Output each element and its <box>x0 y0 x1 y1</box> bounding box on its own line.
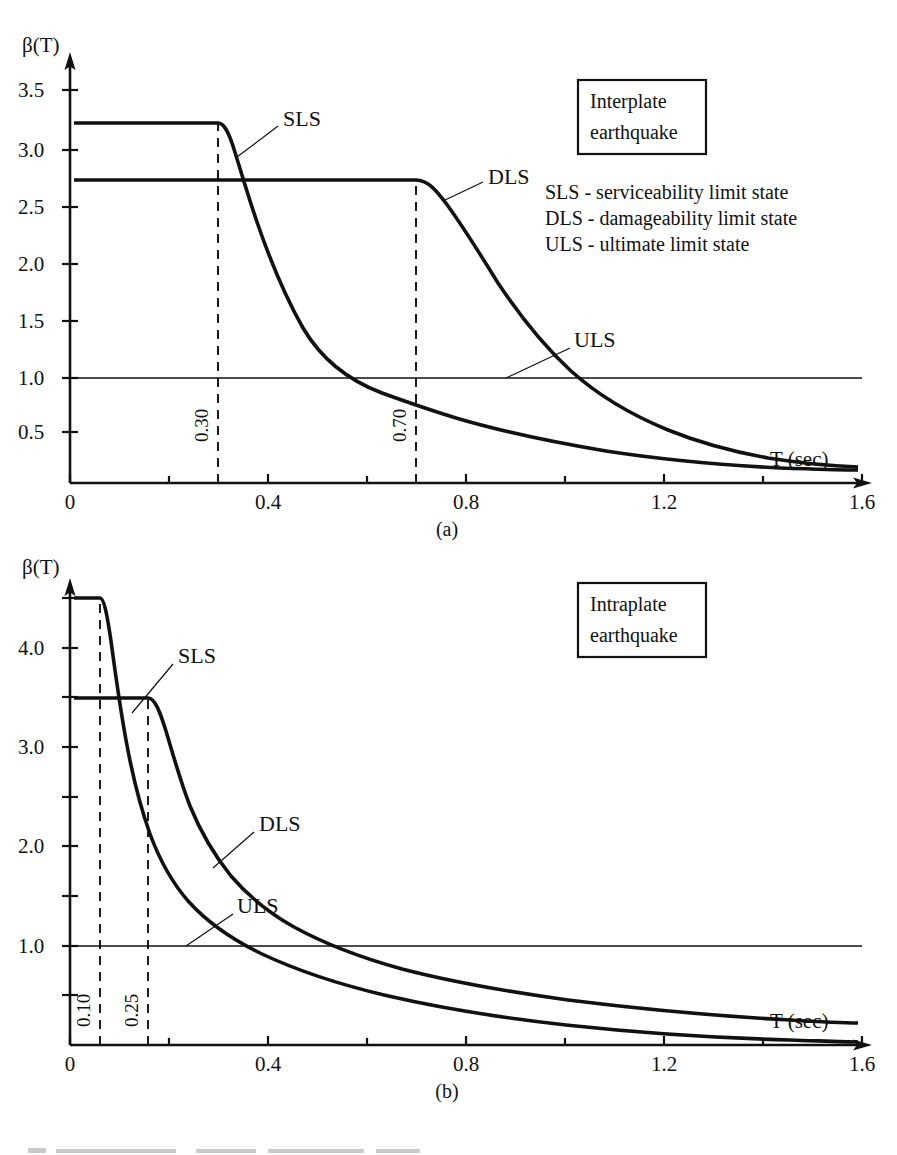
panel-a-x-tick-labels: 0 0.4 0.8 1.2 1.6 <box>65 490 875 514</box>
panel-a-ytick-0_5: 0.5 <box>18 420 44 444</box>
panel-b-dashed-label-0_10: 0.10 <box>73 994 94 1027</box>
panel-a-label: (a) <box>436 518 458 541</box>
panel-b: β(T) 4.0 3.0 2.0 1.0 <box>18 555 875 1103</box>
panel-b-dls-label: DLS <box>259 811 301 836</box>
panel-a-title-line2: earthquake <box>590 121 678 144</box>
panel-b-ytick-1_0: 1.0 <box>18 934 44 958</box>
panel-a-ytick-1_5: 1.5 <box>18 309 44 333</box>
legend-item-dls: DLS - damageability limit state <box>545 207 797 230</box>
panel-a: β(T) 3.5 3.0 2.5 2.0 1.5 <box>18 33 875 541</box>
panel-b-title-line2: earthquake <box>590 624 678 647</box>
panel-b-dls-leader <box>213 832 254 868</box>
panel-b-title-line1: Intraplate <box>590 593 667 616</box>
panel-a-xtick-1_6: 1.6 <box>849 490 875 514</box>
panel-a-dashed-label-0_70: 0.70 <box>389 409 410 442</box>
panel-b-xtick-1_2: 1.2 <box>651 1052 677 1076</box>
figure-svg: β(T) 3.5 3.0 2.5 2.0 1.5 <box>0 0 897 1155</box>
caption-remnant <box>28 1148 420 1153</box>
panel-b-dls-curve <box>74 698 858 1023</box>
panel-a-title-line1: Interplate <box>590 90 667 113</box>
panel-b-xtick-0_4: 0.4 <box>255 1052 282 1076</box>
panel-b-ytick-3_0: 3.0 <box>18 735 44 759</box>
panel-a-ytick-3_5: 3.5 <box>18 78 44 102</box>
panel-a-ytick-3_0: 3.0 <box>18 138 44 162</box>
panel-a-xtick-0_8: 0.8 <box>453 490 479 514</box>
panel-a-ytick-2_5: 2.5 <box>18 195 44 219</box>
panel-b-label: (b) <box>435 1080 458 1103</box>
panel-a-x-ticks <box>70 474 862 483</box>
panel-b-xtick-0: 0 <box>65 1052 76 1076</box>
panel-b-sls-label: SLS <box>178 643 216 668</box>
panel-a-sls-leader <box>237 126 278 157</box>
panel-a-dls-leader <box>443 182 483 201</box>
panel-a-xtick-0: 0 <box>65 490 76 514</box>
panel-b-ytick-4_0: 4.0 <box>18 636 44 660</box>
panel-a-sls-label: SLS <box>283 106 321 131</box>
panel-b-uls-label: ULS <box>237 893 279 918</box>
panel-a-dashed-label-0_30: 0.30 <box>191 409 212 442</box>
panel-b-xtick-0_8: 0.8 <box>453 1052 479 1076</box>
panel-a-ytick-1_0: 1.0 <box>18 366 44 390</box>
panel-a-xtick-0_4: 0.4 <box>255 490 282 514</box>
legend-item-uls: ULS - ultimate limit state <box>545 233 750 255</box>
panel-b-ytick-2_0: 2.0 <box>18 834 44 858</box>
panel-a-y-axis-label: β(T) <box>22 33 60 57</box>
panel-a-legend: SLS - serviceability limit state DLS - d… <box>545 181 797 255</box>
panel-b-xtick-1_6: 1.6 <box>849 1052 875 1076</box>
panel-b-y-tick-labels: 4.0 3.0 2.0 1.0 <box>18 636 44 958</box>
figure-container: β(T) 3.5 3.0 2.5 2.0 1.5 <box>0 0 897 1155</box>
panel-a-ytick-2_0: 2.0 <box>18 252 44 276</box>
panel-a-xtick-1_2: 1.2 <box>651 490 677 514</box>
panel-b-y-axis-label: β(T) <box>22 555 60 579</box>
legend-item-sls: SLS - serviceability limit state <box>545 181 788 204</box>
panel-b-uls-leader <box>186 914 233 946</box>
panel-b-sls-leader <box>132 664 173 713</box>
panel-b-dashed-label-0_25: 0.25 <box>121 994 142 1027</box>
panel-b-x-tick-labels: 0 0.4 0.8 1.2 1.6 <box>65 1052 875 1076</box>
panel-a-dls-label: DLS <box>488 164 530 189</box>
panel-a-uls-label: ULS <box>574 327 616 352</box>
panel-a-y-tick-labels: 3.5 3.0 2.5 2.0 1.5 1.0 0.5 <box>18 78 44 444</box>
